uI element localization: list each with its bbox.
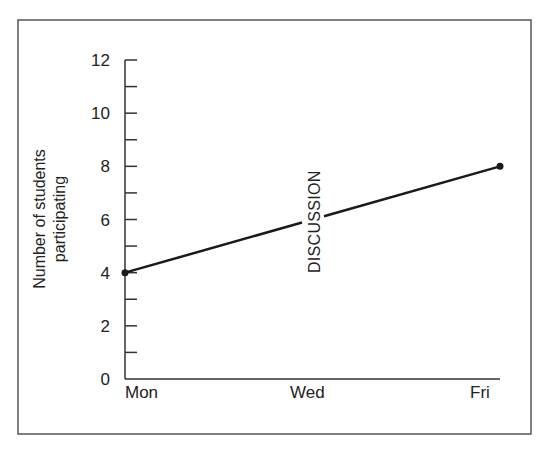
y-tick-label: 6 [101, 211, 110, 230]
x-tick-label-fri: Fri [470, 383, 490, 402]
chart: 024681012 Number of students participati… [0, 0, 547, 451]
data-point [122, 269, 129, 276]
chart-frame [18, 20, 531, 434]
svg-text:participating: participating [51, 176, 68, 262]
y-tick-label: 12 [91, 51, 110, 70]
y-tick-label: 0 [101, 370, 110, 389]
annotation-discussion: DISCUSSION [306, 170, 323, 273]
data-point [497, 163, 504, 170]
y-tick-label: 2 [101, 317, 110, 336]
y-tick-label: 10 [91, 104, 110, 123]
x-tick-label-wed: Wed [290, 383, 325, 402]
y-tick-label: 8 [101, 157, 110, 176]
y-axis-title: Number of students participating [31, 149, 68, 289]
svg-text:Number of students: Number of students [31, 149, 48, 289]
y-tick-label: 4 [101, 264, 110, 283]
x-tick-label-mon: Mon [125, 383, 158, 402]
y-axis: 024681012 [91, 51, 137, 389]
